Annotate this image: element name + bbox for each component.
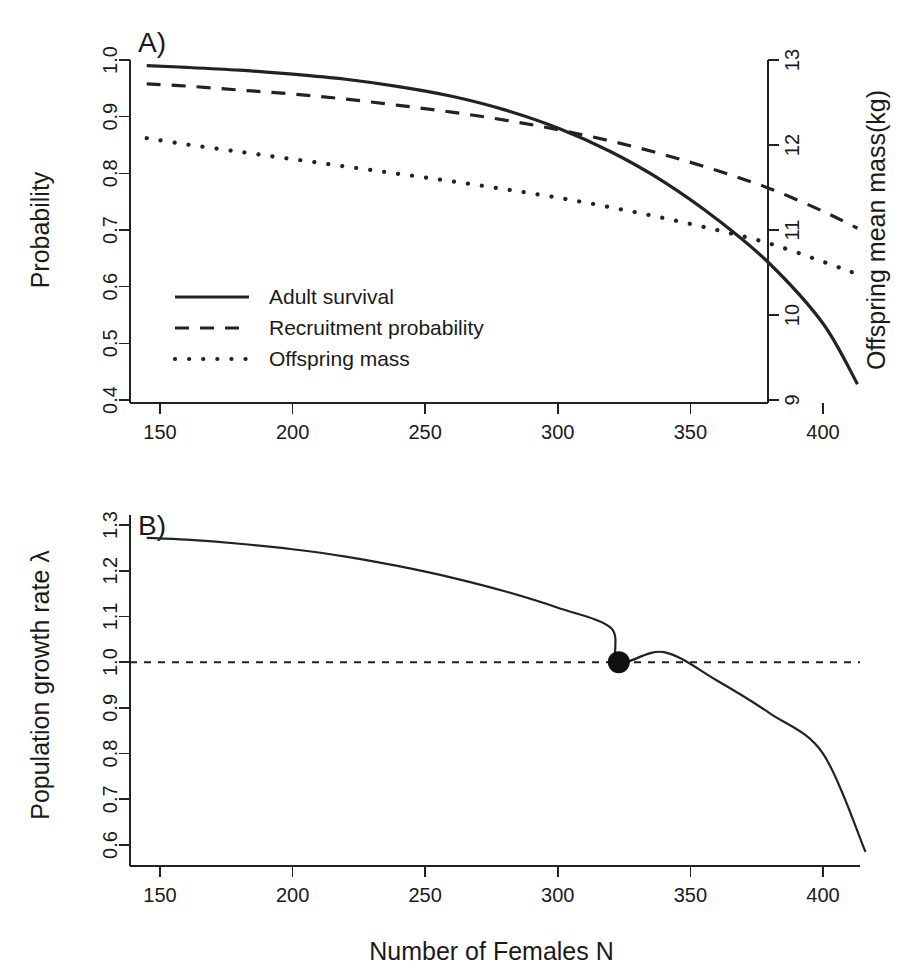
panel-b-x-tick-label: 200	[276, 884, 309, 906]
panel-a-x-tick-label: 200	[276, 421, 309, 443]
panel-a-right-axis-title: Offspring mean mass(kg)	[862, 90, 890, 370]
panel-a-x-tick-label: 300	[541, 421, 574, 443]
panel-a-left-tick-label: 1.0	[99, 46, 121, 74]
panel-b-x-tick-label: 300	[541, 884, 574, 906]
panel-b-y-tick-label: 1.0	[99, 648, 121, 676]
panel-b-equilibrium-point	[608, 651, 630, 673]
panel-a-x-tick-label: 400	[806, 421, 839, 443]
panel-a-left-tick-label: 0.4	[99, 386, 121, 414]
panel-b-y-tick-label: 0.9	[99, 694, 121, 722]
panel-a-right-tick-label: 12	[781, 134, 803, 156]
panel-b-y-axis-title: Population growth rate λ	[26, 550, 54, 820]
figure-background	[0, 0, 902, 977]
panel-a-x-tick-label: 250	[409, 421, 442, 443]
panel-a-left-tick-label: 0.8	[99, 159, 121, 187]
panel-a-right-tick-label: 9	[781, 394, 803, 405]
panel-a-right-tick-label: 13	[781, 49, 803, 71]
panel-a-left-tick-label: 0.5	[99, 329, 121, 357]
panel-b-y-tick-label: 0.6	[99, 831, 121, 859]
panel-b-y-tick-label: 0.7	[99, 785, 121, 813]
two-panel-figure: A)1.00.90.80.70.60.50.4Probability131211…	[0, 0, 902, 977]
panel-b-y-tick-label: 0.8	[99, 740, 121, 768]
panel-b-x-tick-label: 350	[674, 884, 707, 906]
panel-b-label: B)	[138, 510, 166, 541]
panel-b-y-tick-label: 1.3	[99, 511, 121, 539]
panel-b-x-tick-label: 250	[409, 884, 442, 906]
panel-a-right-tick-label: 11	[781, 220, 803, 241]
panel-a-left-tick-label: 0.9	[99, 103, 121, 131]
figure-container: A)1.00.90.80.70.60.50.4Probability131211…	[0, 0, 902, 977]
legend-label-1: Recruitment probability	[269, 316, 484, 339]
panel-a-left-tick-label: 0.6	[99, 273, 121, 301]
panel-b-x-axis-title: Number of Females N	[369, 937, 614, 965]
panel-b-y-tick-label: 1.1	[99, 603, 121, 631]
panel-b-y-tick-label: 1.2	[99, 557, 121, 585]
panel-a-x-tick-label: 150	[143, 421, 176, 443]
legend-label-2: Offspring mass	[269, 347, 410, 370]
panel-a-label: A)	[138, 27, 166, 58]
legend-label-0: Adult survival	[269, 285, 394, 308]
panel-b-x-tick-label: 400	[806, 884, 839, 906]
panel-a-right-tick-label: 10	[781, 304, 803, 326]
panel-a-x-tick-label: 350	[674, 421, 707, 443]
panel-a-left-axis-title: Probability	[26, 171, 54, 288]
panel-b-x-tick-label: 150	[143, 884, 176, 906]
panel-a-left-tick-label: 0.7	[99, 216, 121, 244]
